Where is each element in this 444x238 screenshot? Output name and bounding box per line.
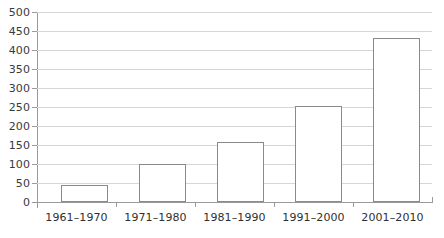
y-tick-label-500: 500	[0, 7, 30, 18]
x-tick-label-1981-1990: 1981–1990	[195, 211, 274, 224]
y-tick-label-200: 200	[0, 121, 30, 132]
bar-2001-2010	[373, 38, 420, 202]
y-tick-label-0: 0	[0, 197, 30, 208]
x-tick-label-1991-2000: 1991–2000	[274, 211, 353, 224]
y-tick-label-350: 350	[0, 64, 30, 75]
bar-1971-1980	[139, 164, 186, 202]
x-tick-mark-0	[37, 202, 38, 207]
x-tick-mark-3	[274, 202, 275, 207]
bar-1981-1990	[217, 142, 264, 202]
bar-chart-figure: 500 450 400 350 300 250 200 150 100 50 0	[0, 0, 444, 238]
x-tick-label-2001-2010: 2001–2010	[353, 211, 432, 224]
gridline-450	[37, 31, 432, 32]
x-tick-label-1971-1980: 1971–1980	[116, 211, 195, 224]
y-tick-label-250: 250	[0, 102, 30, 113]
x-axis-line	[37, 202, 433, 203]
y-tick-label-450: 450	[0, 26, 30, 37]
y-tick-label-150: 150	[0, 140, 30, 151]
bar-1991-2000	[295, 106, 342, 202]
x-tick-mark-2	[195, 202, 196, 207]
gridline-500	[37, 12, 432, 13]
y-tick-label-400: 400	[0, 45, 30, 56]
x-tick-mark-4	[353, 202, 354, 207]
x-axis-end-tick	[432, 197, 433, 203]
x-tick-label-1961-1970: 1961–1970	[37, 211, 116, 224]
y-tick-label-50: 50	[0, 178, 30, 189]
plot-area	[37, 12, 432, 202]
y-tick-label-100: 100	[0, 159, 30, 170]
y-tick-label-300: 300	[0, 83, 30, 94]
y-axis-tick-labels: 500 450 400 350 300 250 200 150 100 50 0	[0, 0, 30, 238]
x-tick-mark-1	[116, 202, 117, 207]
bar-1961-1970	[61, 185, 108, 202]
